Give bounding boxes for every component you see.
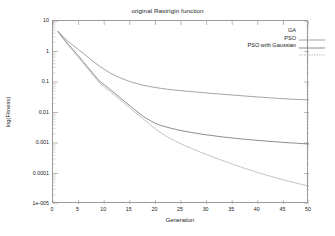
y-tick-label: 0.001 xyxy=(36,139,49,145)
y-tick-label: 0.01 xyxy=(39,109,49,115)
series-line xyxy=(58,32,309,144)
x-tick-label: 20 xyxy=(151,206,157,212)
x-tick-label: 50 xyxy=(305,206,311,212)
chart-figure: original Rastrigin function 1010.10.010.… xyxy=(0,0,335,236)
x-tick-label: 15 xyxy=(126,206,132,212)
series-line xyxy=(58,32,309,186)
legend-label: PSO with Gaussian xyxy=(247,42,296,48)
x-tick-label: 45 xyxy=(279,206,285,212)
x-axis-tick-labels: 05101520253035404550 xyxy=(52,206,308,216)
x-tick-label: 40 xyxy=(254,206,260,212)
y-tick-label: 0.1 xyxy=(42,78,49,84)
legend-label: GA xyxy=(288,27,296,33)
x-tick-label: 30 xyxy=(203,206,209,212)
y-tick-label: 1 xyxy=(46,48,49,54)
plot-series-svg xyxy=(53,21,309,204)
x-tick-label: 10 xyxy=(100,206,106,212)
legend-swatch xyxy=(299,36,325,40)
legend-label: PSO xyxy=(284,35,296,41)
chart-title: original Rastrigin function xyxy=(0,7,335,14)
y-tick-label: 10 xyxy=(43,17,49,23)
x-axis-label: Generation xyxy=(52,217,308,223)
legend-entry: GA xyxy=(288,27,325,33)
legend-swatch xyxy=(299,28,325,32)
y-tick-label: 0.0001 xyxy=(33,170,49,176)
x-tick-label: 35 xyxy=(228,206,234,212)
legend-swatch xyxy=(299,43,325,47)
y-axis-label: log(Fitness) xyxy=(5,97,11,127)
x-tick-label: 0 xyxy=(51,206,54,212)
x-tick-label: 5 xyxy=(76,206,79,212)
x-tick-label: 25 xyxy=(177,206,183,212)
y-tick-label: 1e-005 xyxy=(33,200,50,206)
chart-legend: GAPSOPSO with Gaussian xyxy=(247,27,325,48)
legend-entry: PSO xyxy=(284,35,325,41)
